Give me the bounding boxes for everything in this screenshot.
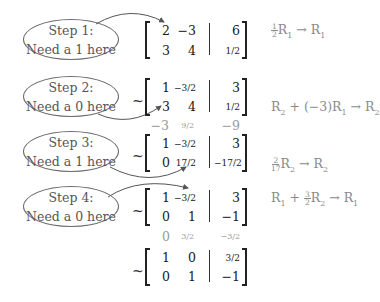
augment-bar: [209, 23, 210, 55]
matrix-cell: 0: [150, 210, 170, 224]
matrix-cell: 17/2: [170, 156, 196, 170]
augment-bar: [209, 250, 210, 282]
row-equivalent-tilde: ~: [132, 148, 144, 164]
matrix-cell: 3: [220, 81, 240, 95]
matrix-cell: 4: [170, 100, 196, 114]
matrix-cell: −3/2: [170, 81, 196, 95]
matrix-cell: 3: [150, 44, 170, 58]
matrix-cell: 6: [220, 24, 240, 38]
matrix-cell: 3/2: [220, 251, 240, 265]
scratch-value: 0: [146, 230, 170, 244]
row-equivalent-tilde: ~: [132, 93, 144, 109]
matrix-cell: 1: [170, 210, 196, 224]
matrix-cell: 2: [150, 24, 170, 38]
scratch-value: 3/2: [170, 230, 194, 244]
matrix-cell: 4: [170, 44, 196, 58]
scratch-value: −3/2: [216, 230, 240, 244]
fraction: 217: [271, 157, 281, 172]
right-bracket: [242, 134, 247, 172]
row-equivalent-tilde: ~: [132, 203, 144, 219]
matrix-cell: 0: [170, 251, 196, 265]
step-3-text: Need a 1 here: [24, 152, 118, 171]
matrix-cell: −1: [220, 210, 240, 224]
scratch-value: −3: [145, 119, 169, 133]
matrix-cell: 1: [150, 81, 170, 95]
step-1-callout: Step 1: Need a 1 here: [23, 19, 119, 60]
matrix-cell: −3/2: [170, 191, 196, 205]
scratch-value: −9: [216, 119, 240, 133]
matrix-cell: 1: [150, 191, 170, 205]
right-bracket: [242, 188, 247, 226]
step-3-callout: Step 3: Need a 1 here: [23, 131, 119, 172]
fraction: 12: [271, 23, 278, 38]
step-4-title: Step 4:: [24, 188, 118, 207]
augment-bar: [209, 136, 210, 168]
step-4-text: Need a 0 here: [24, 207, 118, 226]
right-bracket: [242, 248, 247, 286]
matrix-cell: 1/2: [220, 100, 240, 114]
augment-bar: [209, 80, 210, 112]
step-2-text: Need a 0 here: [24, 97, 118, 116]
operation-4: R1 + 32R2 → R1: [271, 190, 358, 208]
step-2-callout: Step 2: Need a 0 here: [23, 76, 119, 117]
matrix-cell: 1: [170, 270, 196, 284]
matrix-cell: −17/2: [214, 156, 240, 170]
operation-1: 12R1 → R1: [271, 22, 325, 40]
matrix-cell: 3: [220, 137, 240, 151]
step-2-title: Step 2:: [24, 78, 118, 97]
operation-2: R2 + (−3)R1 → R2: [271, 99, 380, 117]
matrix-cell: 1: [150, 251, 170, 265]
matrix-cell: 0: [150, 156, 170, 170]
matrix-cell: 3: [220, 191, 240, 205]
fraction: 32: [304, 191, 311, 206]
matrix-cell: −1: [220, 270, 240, 284]
row-equivalent-tilde: ~: [132, 263, 144, 279]
right-bracket: [242, 21, 247, 59]
step-4-callout: Step 4: Need a 0 here: [23, 186, 119, 227]
matrix-cell: 1/2: [220, 44, 240, 58]
step-3-title: Step 3:: [24, 133, 118, 152]
matrix-cell: 1: [150, 137, 170, 151]
scratch-value: 9/2: [170, 119, 194, 133]
matrix-cell: −3: [170, 24, 196, 38]
matrix-cell: −3/2: [170, 137, 196, 151]
right-bracket: [242, 78, 247, 116]
step-1-text: Need a 1 here: [24, 40, 118, 59]
matrix-cell: 0: [150, 270, 170, 284]
augment-bar: [209, 190, 210, 222]
step-1-title: Step 1:: [24, 21, 118, 40]
matrix-cell: 3: [150, 100, 170, 114]
operation-3: 217R2 → R2: [271, 156, 328, 174]
